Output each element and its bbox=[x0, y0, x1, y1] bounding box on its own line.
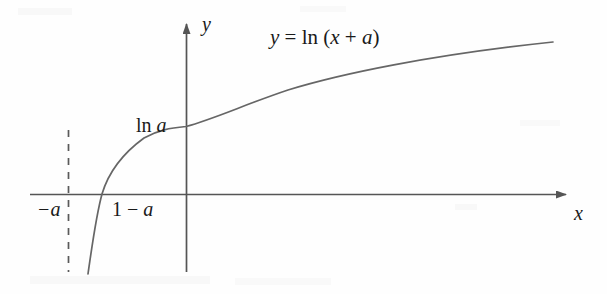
y-intercept-ln: ln bbox=[136, 114, 152, 136]
x-intercept-a: a bbox=[143, 198, 153, 220]
x-intercept-minus: − bbox=[127, 198, 138, 220]
curve-equation-label: y = ln (x + a) bbox=[270, 27, 379, 48]
curve-equation-equals: = bbox=[285, 25, 297, 49]
curve-equation-x: x bbox=[330, 25, 339, 49]
x-intercept-one: 1 bbox=[112, 198, 122, 220]
y-intercept-a: a bbox=[157, 114, 167, 136]
y-intercept-label: ln a bbox=[136, 115, 167, 135]
log-curve bbox=[88, 42, 553, 274]
figure-canvas: y x y = ln (x + a) ln a −a 1 − a bbox=[0, 0, 607, 294]
y-axis-label: y bbox=[202, 14, 211, 34]
curve-equation-ln: ln bbox=[302, 25, 318, 49]
vertical-asymptote-label: −a bbox=[37, 199, 61, 219]
curve-equation-plus: + bbox=[345, 25, 357, 49]
curve-equation-close-paren: ) bbox=[372, 25, 379, 49]
x-intercept-label: 1 − a bbox=[112, 199, 153, 219]
curve-equation-a: a bbox=[362, 25, 373, 49]
curve-equation-y: y bbox=[270, 25, 279, 49]
x-axis-label: x bbox=[574, 203, 583, 223]
